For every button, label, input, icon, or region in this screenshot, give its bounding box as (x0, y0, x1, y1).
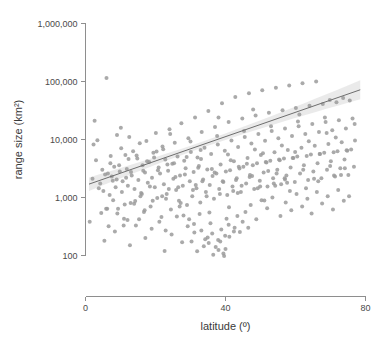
data-point (175, 215, 179, 219)
data-point (324, 120, 328, 124)
data-point (334, 136, 338, 140)
data-point (108, 161, 112, 165)
x-tick-label: 40 (220, 303, 230, 313)
data-point (240, 184, 244, 188)
data-point (129, 170, 133, 174)
data-point (224, 247, 228, 251)
data-point (88, 220, 92, 224)
data-point (176, 185, 180, 189)
data-point (136, 178, 140, 182)
data-point (143, 208, 147, 212)
data-point (332, 173, 336, 177)
data-point (161, 147, 165, 151)
y-tick-label: 1,000,000 (37, 19, 77, 29)
data-point (141, 169, 145, 173)
data-point (345, 148, 349, 152)
data-point (261, 151, 265, 155)
data-point (297, 112, 301, 116)
data-point (206, 109, 210, 113)
data-point (322, 151, 326, 155)
data-point (150, 176, 154, 180)
data-point (148, 184, 152, 188)
data-point (331, 208, 335, 212)
data-point (131, 149, 135, 153)
data-point (168, 127, 172, 131)
data-point (297, 124, 301, 128)
data-point (305, 197, 309, 201)
data-point (100, 168, 104, 172)
data-point (273, 150, 277, 154)
data-point (129, 201, 133, 205)
data-point (329, 159, 333, 163)
data-point (244, 181, 248, 185)
data-point (236, 145, 240, 149)
data-point (133, 187, 137, 191)
data-point (124, 176, 128, 180)
data-point (316, 161, 320, 165)
data-point (200, 130, 204, 134)
data-point (330, 128, 334, 132)
data-point (203, 146, 207, 150)
data-point (325, 168, 329, 172)
data-point (190, 194, 194, 198)
data-point (138, 141, 142, 145)
data-point (217, 248, 221, 252)
axis-labels-layer: 1001,00010,000100,0001,000,00004080latit… (12, 19, 371, 332)
data-point (132, 202, 136, 206)
data-point (326, 194, 330, 198)
data-point (178, 173, 182, 177)
data-point (119, 146, 123, 150)
data-point (223, 234, 227, 238)
data-point (349, 148, 353, 152)
data-point (276, 136, 280, 140)
data-point (255, 161, 259, 165)
data-point (162, 182, 166, 186)
data-point (218, 192, 222, 196)
data-point (286, 148, 290, 152)
data-point (122, 217, 126, 221)
data-point (138, 194, 142, 198)
data-point (176, 154, 180, 158)
data-point (282, 157, 286, 161)
data-point (278, 214, 282, 218)
data-point (206, 235, 210, 239)
data-point (217, 187, 221, 191)
data-point (209, 152, 213, 156)
data-point (302, 163, 306, 167)
data-point (187, 217, 191, 221)
data-point (163, 249, 167, 253)
data-point (111, 198, 115, 202)
data-point (225, 217, 229, 221)
data-point (273, 184, 277, 188)
data-point (218, 239, 222, 243)
data-point (97, 186, 101, 190)
data-point (123, 202, 127, 206)
data-point (232, 229, 236, 233)
data-point (294, 106, 298, 110)
data-point (185, 155, 189, 159)
data-point (95, 138, 99, 142)
data-point (160, 194, 164, 198)
data-point (101, 189, 105, 193)
data-point (296, 119, 300, 123)
data-point (263, 139, 267, 143)
data-point (215, 134, 219, 138)
data-point (208, 221, 212, 225)
data-point (173, 141, 177, 145)
data-point (340, 140, 344, 144)
data-point (113, 229, 117, 233)
data-point (213, 125, 217, 129)
data-point (280, 143, 284, 147)
data-point (226, 153, 230, 157)
data-point (289, 165, 293, 169)
data-point (190, 239, 194, 243)
data-point (159, 215, 163, 219)
data-point (179, 201, 183, 205)
data-point (198, 212, 202, 216)
data-point (154, 131, 158, 135)
data-point (256, 132, 260, 136)
data-point (277, 158, 281, 162)
data-point (135, 153, 139, 157)
data-point (112, 165, 116, 169)
data-point (193, 115, 197, 119)
